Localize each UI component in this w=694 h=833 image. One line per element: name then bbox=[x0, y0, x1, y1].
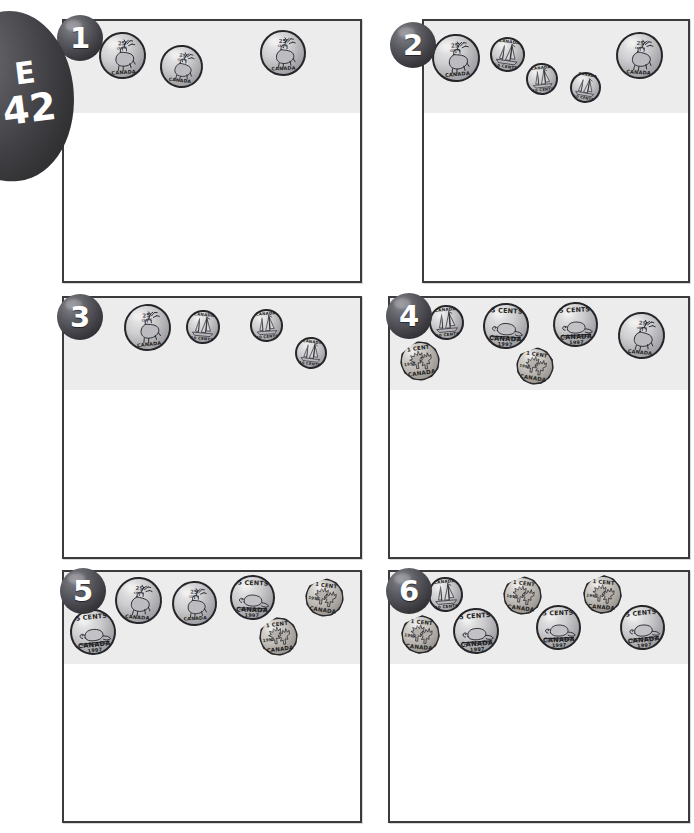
coin-quarter: 25CENTSCANADA bbox=[158, 43, 205, 90]
coin-face-penny bbox=[513, 344, 556, 387]
coin-quarter: 25CENTSCANADA bbox=[616, 310, 667, 361]
coin-face-nickel bbox=[482, 302, 530, 350]
coin-face-quarter: 25CENTS bbox=[430, 32, 482, 84]
answer-area-3[interactable] bbox=[64, 390, 360, 557]
coin-quarter: 25CENTSCANADA bbox=[259, 29, 307, 77]
svg-text:CENTS: CENTS bbox=[637, 326, 647, 331]
svg-text:25: 25 bbox=[190, 588, 198, 594]
svg-text:CENTS: CENTS bbox=[635, 46, 645, 51]
coin-face-nickel bbox=[552, 301, 599, 348]
svg-text:CENTS: CENTS bbox=[141, 318, 152, 323]
svg-text:CENTS: CENTS bbox=[177, 58, 187, 62]
coin-face-quarter: 25CENTS bbox=[158, 43, 205, 90]
problem-number-text: 2 bbox=[403, 31, 423, 60]
problem-number-text: 4 bbox=[399, 302, 419, 331]
svg-text:CENTS: CENTS bbox=[134, 591, 144, 596]
answer-area-1[interactable] bbox=[64, 113, 360, 281]
svg-text:CENTS: CENTS bbox=[189, 595, 199, 599]
coin-face-penny bbox=[397, 338, 442, 383]
coin-penny: 1 CENTCANADA1997 bbox=[399, 613, 442, 656]
coin-quarter: 25CENTSCANADA bbox=[97, 30, 147, 80]
svg-text:CENTS: CENTS bbox=[450, 48, 461, 53]
answer-area-5[interactable] bbox=[64, 664, 360, 821]
coin-penny: 1 CENTCANADA1997 bbox=[513, 344, 556, 387]
answer-area-2[interactable] bbox=[424, 113, 688, 281]
coin-face-dime bbox=[428, 304, 466, 342]
coin-face-quarter: 25CENTS bbox=[616, 310, 667, 361]
svg-text:25: 25 bbox=[636, 40, 644, 46]
coin-face-dime bbox=[293, 335, 329, 371]
svg-text:25: 25 bbox=[179, 52, 187, 59]
problem-number-text: 5 bbox=[73, 577, 93, 606]
problem-number-text: 1 bbox=[70, 24, 90, 53]
coin-dime: CANADA10 CENTS bbox=[524, 61, 559, 96]
coin-face-dime bbox=[185, 309, 222, 346]
coin-face-nickel bbox=[618, 603, 667, 652]
coin-face-quarter: 25CENTS bbox=[615, 31, 664, 80]
problem-number-badge-2: 2 bbox=[390, 22, 436, 68]
coin-face-nickel bbox=[229, 574, 276, 621]
problem-number-badge-3: 3 bbox=[57, 294, 103, 340]
coin-penny: 1 CENTCANADA1997 bbox=[302, 575, 346, 619]
coin-face-dime bbox=[568, 70, 604, 106]
coin-nickel: 5 CENTSCANADA1997 bbox=[229, 574, 276, 621]
coin-dime: CANADA10 CENTS bbox=[185, 309, 222, 346]
coin-dime: CANADA10 CENTS bbox=[427, 576, 465, 614]
coin-dime: CANADA10 CENTS bbox=[249, 308, 284, 343]
coin-face-dime bbox=[427, 576, 465, 614]
coin-nickel: 5 CENTSCANADA1997 bbox=[451, 606, 500, 655]
coin-face-dime bbox=[249, 308, 284, 343]
problem-number-badge-5: 5 bbox=[60, 568, 106, 614]
coin-dime: CANADA10 CENTS bbox=[428, 304, 466, 342]
problem-number-text: 3 bbox=[70, 303, 90, 332]
coin-face-penny bbox=[257, 615, 300, 658]
answer-area-6[interactable] bbox=[390, 664, 688, 821]
coin-face-nickel bbox=[535, 604, 582, 651]
answer-area-4[interactable] bbox=[390, 390, 688, 557]
coin-penny: 1 CENTCANADA1997 bbox=[397, 338, 442, 383]
coin-face-quarter: 25CENTS bbox=[171, 580, 218, 627]
coin-nickel: 5 CENTSCANADA1997 bbox=[535, 604, 582, 651]
coin-quarter: 25CENTSCANADA bbox=[615, 31, 664, 80]
coin-face-dime bbox=[488, 35, 528, 75]
problem-number-badge-6: 6 bbox=[386, 568, 432, 614]
coin-face-quarter: 25CENTS bbox=[97, 30, 147, 80]
coin-quarter: 25CENTSCANADA bbox=[122, 302, 174, 354]
coin-quarter: 25CENTSCANADA bbox=[430, 32, 482, 84]
coin-penny: 1 CENTCANADA1997 bbox=[257, 615, 300, 658]
coin-dime: CANADA10 CENTS bbox=[488, 35, 528, 75]
problem-number-badge-4: 4 bbox=[386, 293, 432, 339]
svg-text:25: 25 bbox=[279, 38, 287, 44]
coin-face-nickel bbox=[68, 607, 119, 658]
coin-dime: CANADA10 CENTS bbox=[568, 70, 604, 106]
coin-face-dime bbox=[524, 61, 559, 96]
coin-face-quarter: 25CENTS bbox=[259, 29, 307, 77]
coin-face-penny bbox=[399, 613, 442, 656]
coin-nickel: 5 CENTSCANADA1997 bbox=[68, 607, 119, 658]
coin-nickel: 5 CENTSCANADA1997 bbox=[482, 302, 530, 350]
coin-face-nickel bbox=[451, 606, 500, 655]
coin-nickel: 5 CENTSCANADA1997 bbox=[618, 603, 667, 652]
coin-face-penny bbox=[302, 575, 346, 619]
problem-number-text: 6 bbox=[399, 577, 419, 606]
svg-text:CENTS: CENTS bbox=[117, 46, 127, 51]
coin-face-quarter: 25CENTS bbox=[113, 575, 163, 625]
coin-nickel: 5 CENTSCANADA1997 bbox=[552, 301, 599, 348]
coin-quarter: 25CENTSCANADA bbox=[113, 575, 163, 625]
svg-text:CENTS: CENTS bbox=[278, 44, 288, 48]
coin-quarter: 25CENTSCANADA bbox=[171, 580, 218, 627]
coin-face-quarter: 25CENTS bbox=[122, 302, 174, 354]
coin-dime: CANADA10 CENTS bbox=[293, 335, 329, 371]
